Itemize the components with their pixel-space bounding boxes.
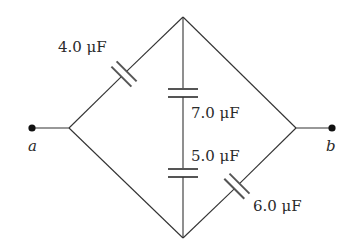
wire-a-bottom: [69, 128, 183, 238]
terminal-b: b: [296, 124, 336, 155]
terminal-a: a: [28, 124, 69, 155]
vertical-branch: 7.0 μF 5.0 μF: [168, 17, 240, 238]
capacitor-c4-label: 6.0 μF: [253, 197, 302, 215]
terminal-label-b: b: [326, 137, 336, 155]
capacitor-c1-label: 4.0 μF: [58, 38, 107, 56]
capacitor-c2-label: 7.0 μF: [191, 104, 240, 122]
terminal-label-a: a: [28, 137, 37, 155]
circuit-diagram: a b 4.0 μF 7.0 μF 5.0 μF 6.0 μF: [0, 0, 357, 248]
wire-bottom-c4: [183, 189, 234, 238]
capacitor-c1-branch: 4.0 μF: [58, 17, 183, 128]
terminal-dot-a: [28, 124, 35, 131]
wire-a-c1: [69, 77, 121, 128]
terminal-dot-b: [328, 124, 335, 131]
wire-c4-b: [240, 128, 297, 184]
wire-c1-top: [127, 17, 183, 71]
capacitor-c3-label: 5.0 μF: [191, 147, 240, 165]
capacitor-c4-branch: 6.0 μF: [183, 128, 302, 238]
